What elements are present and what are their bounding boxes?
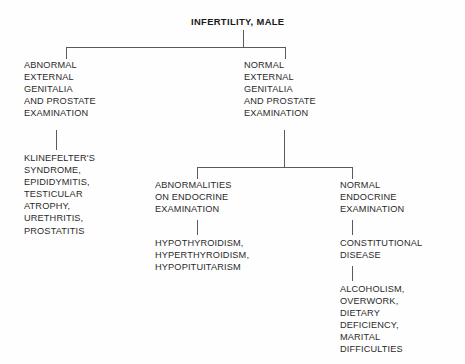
- flowchart-canvas: INFERTILITY, MALE ABNORMAL EXTERNAL GENI…: [0, 0, 465, 364]
- connector-normal-endocrine-to-constitutional: [352, 220, 353, 235]
- fork-bar-top: [66, 47, 286, 48]
- chart-title: INFERTILITY, MALE: [191, 16, 284, 27]
- fork-bar-endocrine: [197, 167, 353, 168]
- node-abnormal-endocrine-causes: HYPOTHYROIDISM, HYPERTHYROIDISM, HYPOPIT…: [155, 237, 249, 273]
- connector-fork-to-normal-endocrine: [352, 167, 353, 179]
- node-constitutional-causes: ALCOHOLISM, OVERWORK, DIETARY DEFICIENCY…: [340, 283, 404, 356]
- connector-abnormal-endocrine-to-causes: [197, 220, 198, 235]
- node-constitutional-disease: CONSTITUTIONAL DISEASE: [340, 237, 422, 261]
- connector-fork-to-normal-exam: [285, 47, 286, 59]
- connector-constitutional-to-causes: [352, 266, 353, 281]
- node-normal-endocrine-exam: NORMAL ENDOCRINE EXAMINATION: [340, 179, 404, 215]
- connector-fork-to-abnormal-exam: [66, 47, 67, 59]
- node-abnormalities-on-endocrine-exam: ABNORMALITIES ON ENDOCRINE EXAMINATION: [155, 179, 232, 215]
- node-abnormal-exam-causes: KLINEFELTER'S SYNDROME, EPIDIDYMITIS, TE…: [24, 152, 95, 237]
- connector-fork-to-abnormal-endocrine: [197, 167, 198, 179]
- connector-title-to-fork: [243, 30, 244, 47]
- node-normal-external-genitalia-exam: NORMAL EXTERNAL GENITALIA AND PROSTATE E…: [244, 59, 316, 119]
- connector-abnormal-exam-to-causes: [56, 130, 57, 150]
- node-abnormal-external-genitalia-exam: ABNORMAL EXTERNAL GENITALIA AND PROSTATE…: [24, 59, 96, 119]
- connector-normal-exam-to-fork: [284, 130, 285, 167]
